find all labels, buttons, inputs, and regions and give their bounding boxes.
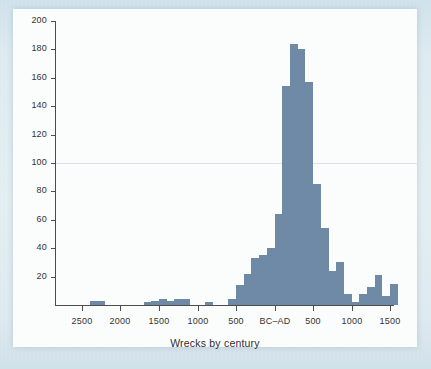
y-tick-mark	[51, 248, 55, 249]
y-tick-label: 20	[13, 272, 47, 281]
histogram-bar	[275, 214, 283, 305]
histogram-bar	[321, 228, 329, 305]
y-tick-mark	[51, 135, 55, 136]
x-axis-line	[55, 305, 394, 306]
x-tick-mark	[390, 306, 391, 311]
histogram-bar	[259, 255, 267, 305]
x-axis-title: Wrecks by century	[13, 337, 417, 349]
x-tick-mark	[159, 306, 160, 311]
histogram-bar	[382, 296, 390, 305]
x-tick-mark	[120, 306, 121, 311]
y-axis-line	[55, 21, 56, 306]
x-tick-mark	[198, 306, 199, 311]
y-tick-label: 60	[13, 215, 47, 224]
bar-series	[13, 9, 417, 305]
x-tick-mark	[236, 306, 237, 311]
y-tick-mark	[51, 78, 55, 79]
histogram-bar	[336, 262, 344, 305]
histogram-bar	[367, 287, 375, 305]
y-tick-mark	[51, 163, 55, 164]
x-tick-label: 1500	[360, 317, 420, 326]
histogram-bar	[251, 258, 259, 305]
y-tick-mark	[51, 106, 55, 107]
chart-paper: 20406080100120140160180200 2500200015001…	[13, 9, 417, 347]
histogram-bar	[282, 86, 290, 305]
histogram-bar	[298, 49, 306, 305]
y-tick-label: 120	[13, 130, 47, 139]
histogram-bar	[313, 184, 321, 305]
histogram-bar	[375, 275, 383, 305]
histogram-bar	[390, 284, 398, 305]
y-tick-mark	[51, 277, 55, 278]
histogram-bar	[267, 248, 275, 305]
histogram-bar	[329, 271, 337, 305]
y-tick-mark	[51, 21, 55, 22]
y-tick-mark	[51, 49, 55, 50]
y-tick-mark	[51, 191, 55, 192]
histogram-bar	[236, 285, 244, 305]
histogram-chart: 20406080100120140160180200 2500200015001…	[13, 9, 417, 347]
y-tick-label: 140	[13, 101, 47, 110]
histogram-bar	[244, 274, 252, 305]
y-tick-label: 200	[13, 16, 47, 25]
x-tick-mark	[82, 306, 83, 311]
histogram-bar	[344, 294, 352, 305]
y-tick-label: 80	[13, 186, 47, 195]
histogram-bar	[359, 294, 367, 305]
x-tick-mark	[352, 306, 353, 311]
x-tick-mark	[275, 306, 276, 311]
y-tick-label: 40	[13, 243, 47, 252]
chart-page: 20406080100120140160180200 2500200015001…	[0, 0, 431, 369]
y-tick-label: 160	[13, 73, 47, 82]
histogram-bar	[290, 44, 298, 305]
histogram-bar	[305, 82, 313, 305]
y-tick-label: 180	[13, 44, 47, 53]
x-tick-mark	[313, 306, 314, 311]
y-tick-mark	[51, 220, 55, 221]
y-tick-label: 100	[13, 158, 47, 167]
